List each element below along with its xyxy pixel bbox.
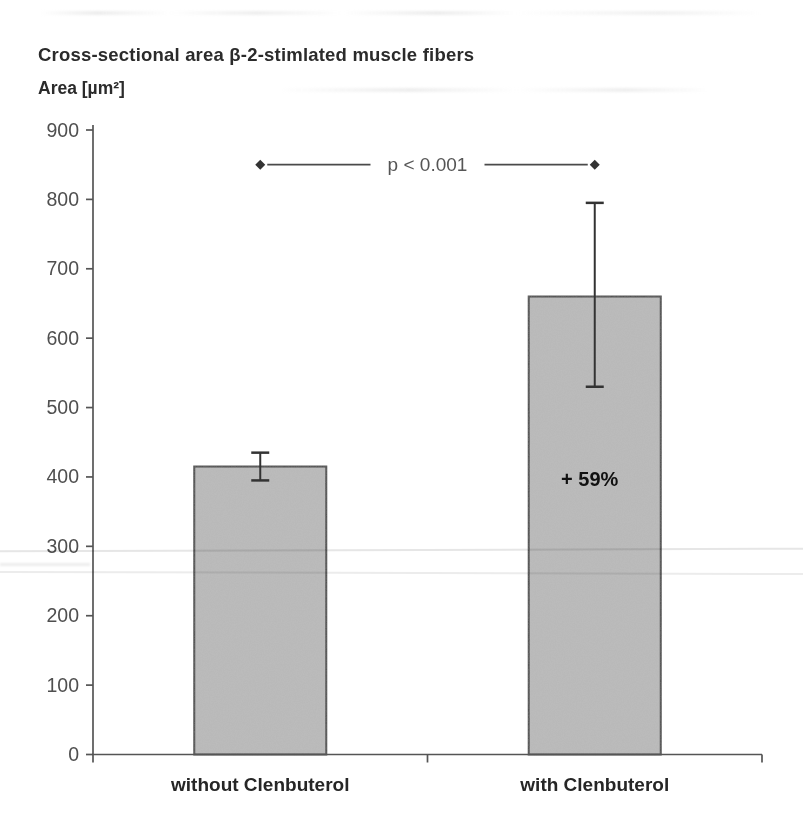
significance-diamond-right <box>590 160 600 170</box>
bar-without-clenbuterol <box>194 467 326 755</box>
y-tick-label-500: 500 <box>46 396 79 418</box>
significance-label: p < 0.001 <box>388 154 468 175</box>
y-tick-label-800: 800 <box>46 188 79 210</box>
bar-chart-canvas: 0100200300400500600700800900without Clen… <box>0 0 803 837</box>
y-tick-label-200: 200 <box>46 604 79 626</box>
y-tick-label-600: 600 <box>46 327 79 349</box>
y-tick-label-900: 900 <box>46 119 79 141</box>
y-tick-label-0: 0 <box>68 743 79 765</box>
significance-diamond-left <box>255 160 265 170</box>
y-tick-label-100: 100 <box>46 674 79 696</box>
y-tick-label-400: 400 <box>46 465 79 487</box>
significance-bracket: p < 0.001 <box>255 154 600 175</box>
y-tick-label-300: 300 <box>46 535 79 557</box>
x-category-label-with-clenbuterol: with Clenbuterol <box>519 774 669 795</box>
y-tick-label-700: 700 <box>46 257 79 279</box>
bar-increase-label: + 59% <box>561 468 618 490</box>
scanned-chart-page: Cross-sectional area β-2-stimlated muscl… <box>0 0 803 837</box>
x-category-label-without-clenbuterol: without Clenbuterol <box>170 774 349 795</box>
